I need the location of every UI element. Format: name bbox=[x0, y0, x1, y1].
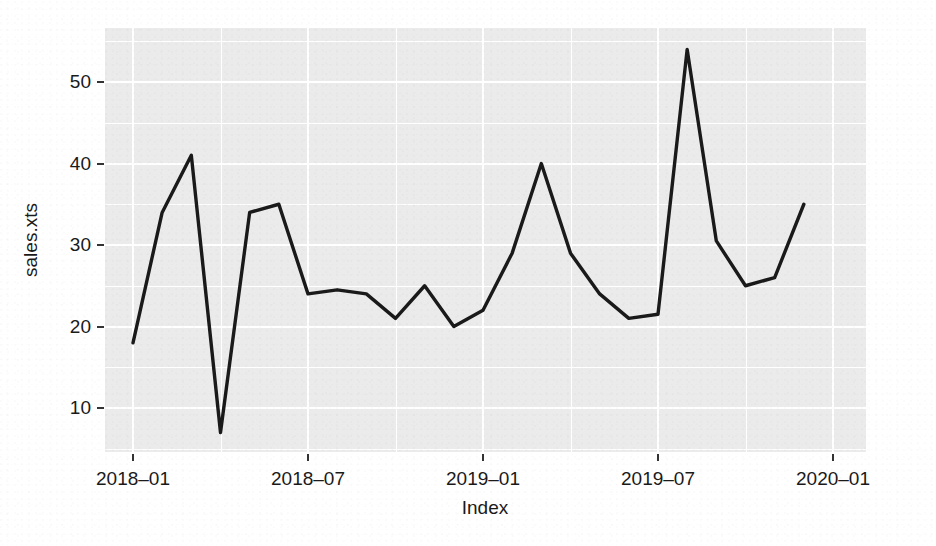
x-axis-tick-label: 2018–01 bbox=[96, 469, 170, 488]
plot-panel bbox=[105, 28, 866, 452]
x-axis-tick-mark bbox=[657, 454, 659, 461]
x-axis-tick-mark bbox=[307, 454, 309, 461]
y-axis-tick-mark bbox=[97, 244, 104, 246]
series-line-sales-xts bbox=[105, 28, 866, 452]
x-axis-tick-mark bbox=[482, 454, 484, 461]
x-axis-tick-label: 2018–07 bbox=[271, 469, 345, 488]
y-axis-tick-mark bbox=[97, 407, 104, 409]
y-axis-title: sales.xts bbox=[21, 203, 40, 277]
y-axis-tick-label: 20 bbox=[70, 317, 91, 336]
x-axis-title: Index bbox=[462, 498, 508, 517]
y-axis-tick-mark bbox=[97, 163, 104, 165]
x-axis-tick-label: 2020–01 bbox=[796, 469, 870, 488]
x-axis-tick-label: 2019–07 bbox=[621, 469, 695, 488]
x-axis-tick-mark bbox=[832, 454, 834, 461]
y-axis-tick-mark bbox=[97, 81, 104, 83]
y-axis-tick-label: 30 bbox=[70, 235, 91, 254]
line-chart-figure: 1020304050 sales.xts 2018–012018–072019–… bbox=[0, 0, 936, 546]
x-axis-tick-label: 2019–01 bbox=[446, 469, 520, 488]
x-axis-tick-mark bbox=[132, 454, 134, 461]
y-axis-tick-label: 10 bbox=[70, 398, 91, 417]
y-axis-tick-label: 40 bbox=[70, 154, 91, 173]
y-axis-tick-label: 50 bbox=[70, 72, 91, 91]
y-axis-tick-mark bbox=[97, 326, 104, 328]
